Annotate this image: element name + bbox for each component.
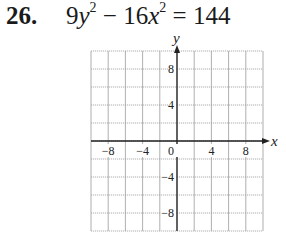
y-tick-label: 4 xyxy=(168,98,174,112)
y-tick-label: −8 xyxy=(161,206,174,220)
x-tick-label: −4 xyxy=(136,144,149,158)
x-axis-label: x xyxy=(270,133,278,149)
y-axis-arrow-icon xyxy=(174,45,180,53)
y-tick-label: −4 xyxy=(161,170,174,184)
x-tick-label: −8 xyxy=(102,144,115,158)
y-tick-label: 8 xyxy=(168,62,174,76)
x-axis-arrow-icon xyxy=(262,138,270,144)
tick-label-bg xyxy=(173,144,182,157)
x-tick-label: 4 xyxy=(208,144,214,158)
x-tick-label: 0 xyxy=(168,144,174,158)
y-axis-label: y xyxy=(171,30,180,46)
coordinate-grid-chart: xy−8−404884−4−8 xyxy=(0,0,286,236)
x-tick-label: 8 xyxy=(243,144,249,158)
